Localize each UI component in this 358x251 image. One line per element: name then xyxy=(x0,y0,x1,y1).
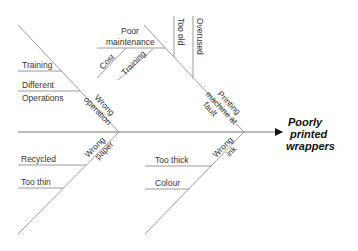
effect-label: Poorly printed wrappers xyxy=(286,116,335,152)
cause-printing-machine: Printing machine at fault Poor maintenan… xyxy=(97,16,246,133)
cause-wrong-operation: Wrong operation Training Different Opera… xyxy=(18,25,120,132)
sub-cause-too-thin: Too thin xyxy=(21,177,51,187)
sub-cause-maintenance: maintenance xyxy=(106,37,155,47)
sub-cause-training: Training xyxy=(22,60,53,70)
category-label-wrong-operation: Wrong operation xyxy=(82,88,120,127)
category-label-printing-machine: Printing machine at fault xyxy=(197,83,246,133)
effect-line-2: printed xyxy=(289,128,328,140)
effect-line-3: wrappers xyxy=(286,140,335,152)
sub-cause-different-line-2: Operations xyxy=(22,93,64,103)
sub-cause-too-old: Too old xyxy=(176,18,186,46)
sub-cause-too-thick: Too thick xyxy=(155,155,189,165)
sub-cause-overused: Overused xyxy=(195,18,205,55)
effect-line-1: Poorly xyxy=(288,116,323,128)
sub-cause-cost: Cost xyxy=(97,51,117,71)
sub-cause-poor: Poor xyxy=(121,26,139,36)
sub-cause-different-line-1: Different xyxy=(22,80,55,90)
category-label-wrong-paper: Wrong paper xyxy=(82,133,115,166)
sub-cause-recycled: Recycled xyxy=(21,154,56,164)
sub-cause-colour: Colour xyxy=(155,178,180,188)
cause-wrong-ink: Wrong ink Too thick Colour xyxy=(145,132,244,234)
fishbone-diagram: Poorly printed wrappers Wrong operation … xyxy=(0,0,358,251)
sub-cause-training-machine: Training xyxy=(119,48,147,77)
cause-wrong-paper: Wrong paper Recycled Too thin xyxy=(18,132,119,234)
